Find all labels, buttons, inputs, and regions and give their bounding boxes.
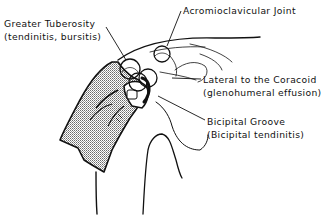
label-acromioclavicular-name: Acromioclavicular Joint bbox=[183, 5, 296, 18]
label-acromioclavicular-joint: Acromioclavicular Joint bbox=[183, 5, 296, 18]
leader-coracoid bbox=[172, 78, 201, 79]
label-bicipital-groove: Bicipital Groove (Bicipital tendinitis) bbox=[207, 116, 304, 141]
label-bicipital-detail: (Bicipital tendinitis) bbox=[207, 129, 304, 142]
label-greater-tuberosity: Greater Tuberosity (tendinitis, bursitis… bbox=[4, 18, 101, 43]
label-coracoid-name: Lateral to the Coracoid bbox=[203, 74, 322, 87]
label-coracoid-detail: (glenohumeral effusion) bbox=[203, 87, 322, 100]
label-greater-tuberosity-detail: (tendinitis, bursitis) bbox=[4, 31, 101, 44]
leader-bicipital bbox=[158, 96, 205, 120]
acromioclavicular-circle bbox=[154, 46, 170, 62]
examiner-hand bbox=[60, 62, 148, 172]
label-bicipital-name: Bicipital Groove bbox=[207, 116, 304, 129]
shoulder-palpation-diagram: Greater Tuberosity (tendinitis, bursitis… bbox=[0, 0, 328, 221]
label-greater-tuberosity-name: Greater Tuberosity bbox=[4, 18, 101, 31]
leader-greater-tuberosity bbox=[106, 27, 126, 60]
leader-acromioclavicular bbox=[167, 11, 181, 46]
label-lateral-to-coracoid: Lateral to the Coracoid (glenohumeral ef… bbox=[203, 74, 322, 99]
